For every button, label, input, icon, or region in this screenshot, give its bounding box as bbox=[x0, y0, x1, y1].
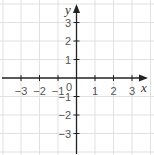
y-axis-arrow-icon bbox=[73, 4, 80, 13]
x-tick-label-neg2: −2 bbox=[33, 85, 46, 97]
x-tick-label-3: 3 bbox=[129, 85, 135, 97]
y-tick-label-neg3: −3 bbox=[58, 128, 71, 140]
y-tick-label-2: 2 bbox=[65, 35, 71, 47]
x-tick-label-2: 2 bbox=[110, 85, 116, 97]
x-tick-label-neg3: −3 bbox=[15, 85, 28, 97]
y-axis-label: y bbox=[63, 2, 71, 17]
y-tick-label-3: 3 bbox=[65, 17, 71, 29]
y-tick-label-1: 1 bbox=[65, 54, 71, 66]
x-axis-label: x bbox=[140, 80, 147, 95]
y-axis bbox=[73, 4, 80, 154]
y-tick-label-neg2: −2 bbox=[58, 109, 71, 121]
y-tick-label-neg1: −1 bbox=[58, 91, 71, 103]
x-tick-label-1: 1 bbox=[92, 85, 98, 97]
x-axis bbox=[2, 75, 148, 82]
coordinate-plane: −3 −2 −1 0 1 2 3 3 2 1 −1 −2 −3 x y bbox=[0, 0, 154, 155]
